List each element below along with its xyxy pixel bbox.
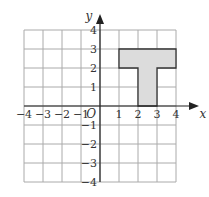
x-tick-label: 2 [135, 108, 142, 121]
coordinate-plane: −4−3−2−112344321−1−2−3−4Oxy [0, 0, 209, 197]
y-axis-arrow-icon [96, 14, 104, 24]
y-tick-label: 2 [90, 62, 97, 75]
x-tick-label: 3 [154, 108, 161, 121]
y-axis-label: y [85, 9, 93, 23]
tick-labels: −4−3−2−112344321−1−2−3−4Oxy [16, 9, 207, 189]
y-tick-label: 4 [90, 24, 97, 37]
y-tick-label: −2 [81, 138, 97, 151]
y-tick-label: 3 [90, 43, 97, 56]
origin-label: O [86, 107, 96, 121]
x-tick-label: −2 [54, 108, 70, 121]
x-tick-label: 1 [116, 108, 123, 121]
x-axis-arrow-icon [189, 102, 199, 110]
y-tick-label: −3 [81, 157, 97, 170]
axes [24, 14, 199, 182]
y-tick-label: −4 [81, 176, 97, 189]
y-tick-label: 1 [90, 81, 97, 94]
x-axis-label: x [200, 107, 207, 121]
t-shape [119, 49, 176, 106]
x-tick-label: −4 [16, 108, 32, 121]
x-tick-label: 4 [173, 108, 180, 121]
x-tick-label: −3 [35, 108, 51, 121]
